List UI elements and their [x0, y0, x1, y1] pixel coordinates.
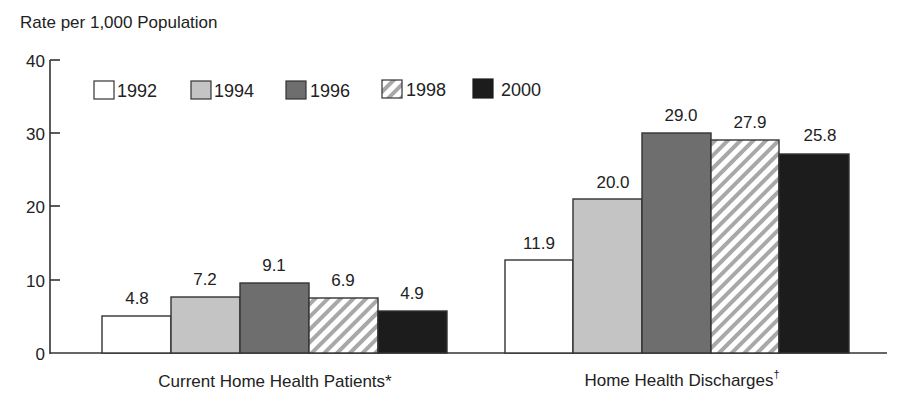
y-tick-0: 0 [36, 345, 45, 364]
y-axis [50, 60, 60, 354]
bar-1992-discharges [505, 260, 573, 353]
legend-label-1994: 1994 [214, 81, 254, 101]
bar-2000-patients [378, 311, 447, 353]
category-label-discharges: Home Health Discharges† [584, 368, 779, 390]
bar-1996-patients [240, 283, 309, 353]
value-label: 4.8 [125, 289, 149, 308]
bar-1998-patients [309, 298, 378, 353]
bar-1998-discharges [711, 140, 779, 353]
bar-1996-discharges [642, 133, 711, 353]
bar-1994-discharges [573, 199, 642, 353]
legend-label-1996: 1996 [310, 81, 350, 101]
value-label: 25.8 [803, 126, 836, 145]
value-label: 29.0 [664, 106, 697, 125]
bar-2000-discharges [779, 154, 849, 353]
value-label: 7.2 [193, 270, 217, 289]
legend-label-2000: 2000 [501, 80, 541, 100]
category-label-current-patients: Current Home Health Patients* [158, 372, 392, 391]
y-tick-20: 20 [26, 198, 45, 217]
legend-swatch-1994 [191, 81, 211, 99]
legend: 1992 1994 1996 1998 2000 [94, 79, 541, 101]
legend-swatch-2000 [473, 79, 493, 98]
bar-group-current-patients [102, 283, 447, 353]
y-tick-40: 40 [26, 52, 45, 71]
value-label: 9.1 [262, 256, 286, 275]
bar-group-discharges [505, 133, 849, 353]
legend-swatch-1992 [94, 81, 114, 99]
value-label: 27.9 [733, 113, 766, 132]
legend-swatch-1996 [286, 81, 306, 99]
category-label-discharges-text: Home Health Discharges [584, 371, 773, 390]
legend-label-1998: 1998 [406, 80, 446, 100]
dagger-footnote-marker: † [773, 368, 779, 380]
bar-1992-patients [102, 316, 171, 353]
legend-swatch-1998 [382, 80, 402, 98]
value-label: 6.9 [331, 271, 355, 290]
y-axis-title: Rate per 1,000 Population [20, 13, 218, 32]
y-tick-labels: 40 30 20 10 0 [26, 52, 45, 364]
y-tick-10: 10 [26, 272, 45, 291]
value-label: 20.0 [596, 173, 629, 192]
bar-chart: Rate per 1,000 Population 40 30 20 10 0 … [0, 0, 901, 399]
value-label: 4.9 [400, 284, 424, 303]
y-tick-30: 30 [26, 125, 45, 144]
bar-1994-patients [171, 297, 240, 353]
value-label: 11.9 [523, 234, 555, 253]
legend-label-1992: 1992 [117, 81, 157, 101]
